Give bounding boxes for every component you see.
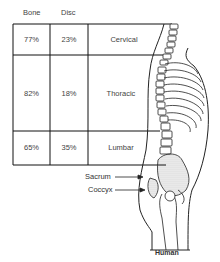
cell-lumbar-disc: 35% bbox=[50, 143, 88, 152]
ribs bbox=[164, 63, 204, 132]
cell-lumbar-bone: 65% bbox=[13, 143, 50, 152]
header-disc: Disc bbox=[61, 8, 76, 17]
cell-cervical-disc: 23% bbox=[50, 35, 88, 44]
label-sacrum: Sacrum bbox=[85, 172, 111, 181]
cell-thoracic-region: Thoracic bbox=[88, 89, 154, 98]
cell-thoracic-disc: 18% bbox=[50, 89, 88, 98]
label-coccyx: Coccyx bbox=[88, 185, 113, 194]
body-outline bbox=[139, 24, 209, 250]
femur bbox=[160, 190, 184, 250]
header-bone: Bone bbox=[23, 8, 41, 17]
cell-cervical-region: Cervical bbox=[88, 35, 160, 44]
cell-lumbar-region: Lumbar bbox=[88, 143, 154, 152]
label-arrows bbox=[115, 175, 145, 192]
cell-cervical-bone: 77% bbox=[13, 35, 50, 44]
cell-thoracic-bone: 82% bbox=[13, 89, 50, 98]
caption-human: Human bbox=[155, 249, 179, 256]
